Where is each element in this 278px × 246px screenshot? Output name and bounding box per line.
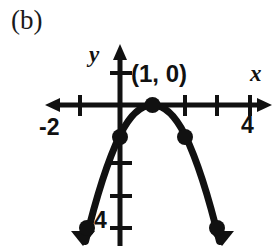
- vertex-point-label: (1, 0): [131, 62, 187, 86]
- x-tick-label-4: 4: [241, 114, 254, 137]
- graph-figure: (b): [0, 0, 278, 246]
- x-axis-right-arrowhead: [257, 98, 272, 112]
- data-point-right-outer: [209, 220, 225, 236]
- x-tick-label-minus-2: -2: [39, 116, 59, 139]
- data-point-vertex: [145, 97, 161, 113]
- panel-label: (b): [11, 7, 42, 34]
- x-axis-label: x: [250, 62, 262, 85]
- data-point-right-inner: [177, 129, 193, 145]
- x-axis-left-arrowhead: [45, 98, 60, 112]
- data-point-left-inner: [112, 129, 128, 145]
- y-tick-label-minus-4: 4: [94, 209, 107, 232]
- y-axis-label: y: [89, 43, 99, 66]
- y-axis-top-arrowhead: [113, 44, 127, 60]
- data-point-left-outer: [79, 220, 95, 236]
